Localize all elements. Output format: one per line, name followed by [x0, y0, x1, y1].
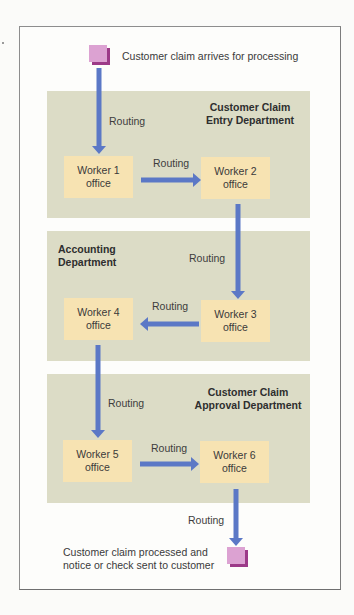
worker-3-office: Worker 3 office: [201, 300, 270, 342]
routing-label-7: Routing: [188, 514, 224, 526]
end-caption: Customer claim processed and notice or c…: [63, 546, 214, 572]
scan-artifact-dot: [2, 42, 4, 44]
routing-label-5: Routing: [108, 397, 144, 409]
department-label-accounting: Accounting Department: [58, 243, 116, 269]
arrow-down-worker4-to-worker5-icon: [91, 345, 105, 438]
routing-label-6: Routing: [151, 442, 187, 454]
worker-1-office: Worker 1 office: [64, 156, 133, 198]
routing-label-1: Routing: [109, 115, 145, 127]
arrow-down-worker6-to-end-icon: [229, 489, 243, 546]
arrow-down-start-to-worker1-icon: [92, 68, 106, 154]
arrow-right-worker1-to-worker2-icon: [141, 173, 201, 187]
start-caption: Customer claim arrives for processing: [122, 50, 298, 63]
department-label-entry: Customer Claim Entry Department: [200, 101, 300, 127]
routing-label-4: Routing: [152, 300, 188, 312]
routing-label-2: Routing: [153, 157, 189, 169]
worker-4-office: Worker 4 office: [64, 298, 133, 340]
start-document-icon: [89, 45, 107, 62]
arrow-right-worker5-to-worker6-icon: [140, 457, 199, 471]
worker-2-office: Worker 2 office: [201, 157, 270, 199]
end-document-icon: [227, 547, 245, 564]
arrow-down-worker2-to-worker3-icon: [231, 204, 245, 299]
worker-6-office: Worker 6 office: [200, 441, 269, 483]
arrow-left-worker3-to-worker4-icon: [140, 317, 199, 331]
department-label-approval: Customer Claim Approval Department: [190, 386, 306, 412]
worker-5-office: Worker 5 office: [63, 440, 132, 482]
routing-label-3: Routing: [189, 252, 225, 264]
